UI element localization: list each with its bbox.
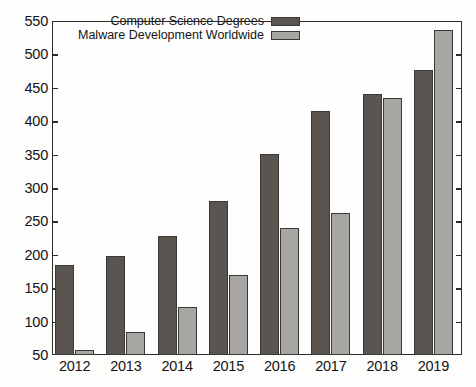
bar-2014-series-1 [158, 236, 177, 355]
bar-2015-series-1 [209, 201, 228, 355]
legend-label: Malware Development Worldwide [78, 29, 264, 42]
bar-2013-series-2 [126, 332, 145, 355]
bar-2019-series-2 [434, 30, 453, 355]
bar-2014-series-2 [178, 307, 197, 355]
bar-2015-series-2 [229, 275, 248, 355]
legend-item-computer-science-degrees: Computer Science Degrees [78, 15, 300, 28]
x-tick-label: 2015 [213, 359, 244, 374]
bar-2019-series-1 [414, 70, 433, 355]
bar-2017-series-2 [331, 213, 350, 355]
chart-legend: Computer Science Degrees Malware Develop… [78, 15, 300, 42]
x-tick-label: 2014 [161, 359, 192, 374]
bar-2016-series-1 [260, 154, 279, 355]
bar-2016-series-2 [280, 228, 299, 355]
legend-item-malware-development-worldwide: Malware Development Worldwide [78, 29, 300, 42]
legend-label: Computer Science Degrees [110, 15, 264, 28]
x-axis: 20122013201420152016201720182019 [52, 357, 462, 385]
x-tick-label: 2017 [315, 359, 346, 374]
bar-2017-series-1 [311, 111, 330, 355]
x-tick-label: 2018 [366, 359, 397, 374]
light-gray-swatch [271, 31, 300, 40]
bar-chart-figure: 50100150200250300350400450500550 2012201… [0, 0, 476, 387]
x-tick-label: 2016 [264, 359, 295, 374]
x-tick-label: 2013 [110, 359, 141, 374]
x-tick-label: 2012 [59, 359, 90, 374]
bar-2013-series-1 [106, 256, 125, 355]
bar-2018-series-1 [363, 94, 382, 355]
dark-gray-swatch [271, 17, 300, 26]
x-tick-label: 2019 [418, 359, 449, 374]
bar-2012-series-1 [55, 265, 74, 355]
bar-2012-series-2 [75, 350, 94, 355]
bars-layer [0, 0, 476, 387]
bar-2018-series-2 [383, 98, 402, 355]
